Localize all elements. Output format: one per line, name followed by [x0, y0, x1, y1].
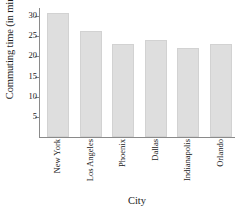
x-axis-tick-label: Phoenix: [117, 139, 127, 167]
x-axis-tick-label: Dallas: [150, 139, 160, 161]
bar: [177, 48, 199, 137]
y-axis-tick-label: 5: [33, 111, 37, 122]
x-axis-tick-label: New York: [52, 139, 62, 173]
x-axis-tick: Phoenix: [116, 139, 128, 191]
chart-title: [60, 0, 230, 4]
x-axis-tick: Los Angeles: [84, 139, 96, 191]
bar-series: [40, 8, 235, 138]
bar: [210, 44, 232, 137]
x-axis-tick-labels: New YorkLos AngelesPhoenixDallasIndianap…: [39, 139, 235, 191]
x-axis-tick: Orlando: [214, 139, 226, 191]
x-axis-tick-label: Indianapolis: [182, 139, 192, 181]
bar: [112, 44, 134, 137]
plot-area: 51015202530: [39, 8, 235, 138]
y-axis-tick-label: 10: [29, 91, 38, 102]
x-axis-tick: New York: [51, 139, 63, 191]
bar: [145, 40, 167, 137]
x-axis-tick-label: Los Angeles: [85, 139, 95, 181]
bar: [47, 13, 69, 137]
bar-chart: Commuting time (in minutes) 51015202530 …: [0, 0, 241, 211]
x-axis-tick-label: Orlando: [215, 139, 225, 167]
y-axis-tick-label: 20: [29, 50, 38, 61]
y-axis-tick-label: 30: [29, 10, 38, 21]
x-axis-title: City: [39, 194, 235, 207]
bar: [80, 31, 102, 137]
x-axis-tick: Dallas: [149, 139, 161, 191]
x-axis-tick: Indianapolis: [181, 139, 193, 191]
y-axis-title: Commuting time (in minutes): [2, 0, 18, 108]
y-axis-tick-label: 25: [29, 30, 38, 41]
y-axis-tick-label: 15: [29, 71, 38, 82]
